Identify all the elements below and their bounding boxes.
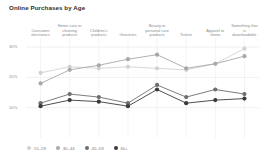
chart-card: Online Purchases by Age Consumer electro… [0,0,263,162]
legend-item[interactable]: 15–29 [27,146,46,151]
category-label: Children's products [85,29,112,38]
data-point[interactable] [184,101,188,105]
legend-label: 60+ [120,146,127,151]
data-point[interactable] [38,104,42,108]
data-point[interactable] [242,47,246,51]
data-point[interactable] [213,98,217,102]
data-point[interactable] [184,66,188,70]
legend-item[interactable]: 30–44 [56,146,75,151]
data-point[interactable] [38,81,42,85]
data-point[interactable] [68,92,72,96]
category-label: Apparel or shoes [202,29,229,38]
data-point[interactable] [155,66,159,70]
y-tick-label: 20% [9,74,17,79]
legend-swatch-icon [27,146,31,150]
data-point[interactable] [126,104,130,108]
legend-swatch-icon [85,146,89,150]
data-point[interactable] [68,68,72,72]
data-point[interactable] [97,100,101,104]
chart-legend: 15–2930–4445–5960+ [27,143,128,153]
horizontal-gridlines [26,47,259,108]
data-point[interactable] [155,53,159,57]
legend-item[interactable]: 60+ [114,146,128,151]
legend-item[interactable]: 45–59 [85,146,104,151]
series-line [41,90,245,107]
data-point[interactable] [184,95,188,99]
data-point[interactable] [213,62,217,66]
y-tick-label: 10% [9,105,17,110]
data-point[interactable] [155,83,159,87]
category-label: Home care or cleaning products [56,24,83,38]
vertical-gridlines [41,38,245,138]
data-point[interactable] [155,87,159,91]
legend-label: 15–29 [34,146,46,151]
category-label: Consumer electronics [27,29,54,38]
data-point[interactable] [126,57,130,61]
data-point[interactable] [38,71,42,75]
legend-swatch-icon [114,146,118,150]
data-point[interactable] [242,97,246,101]
category-label: Beauty or personal care products [144,24,171,38]
data-point[interactable] [97,63,101,67]
data-point[interactable] [97,95,101,99]
data-point[interactable] [126,65,130,69]
line-chart-plot [26,38,259,138]
category-header-row: Consumer electronicsHome care or cleanin… [26,13,259,38]
data-point[interactable] [242,54,246,58]
plot-area [26,38,259,138]
data-point[interactable] [213,87,217,91]
category-label: Something that is downloadable [231,24,258,38]
legend-swatch-icon [56,146,60,150]
data-point[interactable] [68,98,72,102]
y-tick-label: 30% [9,44,17,49]
y-axis-labels: 10%20%30% [0,38,26,138]
data-point[interactable] [242,92,246,96]
legend-label: 30–44 [63,146,75,151]
legend-label: 45–59 [92,146,104,151]
chart-title: Online Purchases by Age [9,4,85,11]
